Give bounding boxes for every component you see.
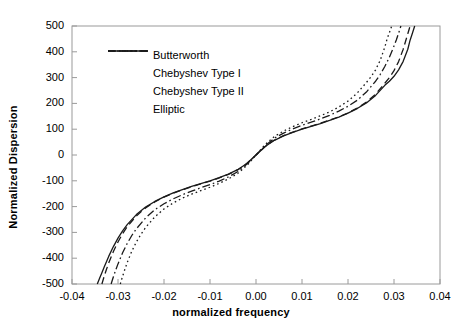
x-axis-tick-label: 0.04 bbox=[417, 291, 462, 302]
y-axis-tick-label: 200 bbox=[20, 97, 64, 108]
y-axis-tick-label: -500 bbox=[20, 278, 64, 289]
y-axis-tick-label: -100 bbox=[20, 175, 64, 186]
x-axis-tick-label: 0.01 bbox=[279, 291, 325, 302]
x-axis-tick-label: 0.00 bbox=[233, 291, 279, 302]
legend-item: Elliptic bbox=[108, 100, 244, 118]
y-axis-tick-label: -300 bbox=[20, 226, 64, 237]
y-axis-tick-label: 100 bbox=[20, 123, 64, 134]
legend-item-label: Butterworth bbox=[153, 50, 209, 61]
legend-item-label: Chebyshev Type I bbox=[153, 68, 241, 79]
chart-legend: ButterworthChebyshev Type IChebyshev Typ… bbox=[108, 46, 244, 118]
y-axis-tick-label: 300 bbox=[20, 72, 64, 83]
y-axis-tick-label: -200 bbox=[20, 201, 64, 212]
legend-line-sample bbox=[108, 104, 148, 114]
legend-item: Chebyshev Type II bbox=[108, 82, 244, 100]
y-axis-tick-label: 500 bbox=[20, 20, 64, 31]
dispersion-chart-figure: Normalized Dispersion normalized frequen… bbox=[0, 0, 462, 333]
legend-item: Chebyshev Type I bbox=[108, 64, 244, 82]
y-axis-tick-label: -400 bbox=[20, 252, 64, 263]
x-axis-tick-label: -0.02 bbox=[141, 291, 187, 302]
y-axis-tick-label: 400 bbox=[20, 46, 64, 57]
legend-line-sample bbox=[108, 86, 148, 96]
legend-item-label: Elliptic bbox=[153, 104, 185, 115]
x-axis-tick-label: 0.03 bbox=[371, 291, 417, 302]
x-axis-tick-label: -0.01 bbox=[187, 291, 233, 302]
legend-item-label: Chebyshev Type II bbox=[153, 86, 244, 97]
x-axis-tick-label: -0.03 bbox=[95, 291, 141, 302]
legend-line-sample bbox=[108, 68, 148, 78]
x-axis-tick-label: 0.02 bbox=[325, 291, 371, 302]
y-axis-tick-label: 0 bbox=[20, 149, 64, 160]
x-axis-tick-label: -0.04 bbox=[49, 291, 95, 302]
